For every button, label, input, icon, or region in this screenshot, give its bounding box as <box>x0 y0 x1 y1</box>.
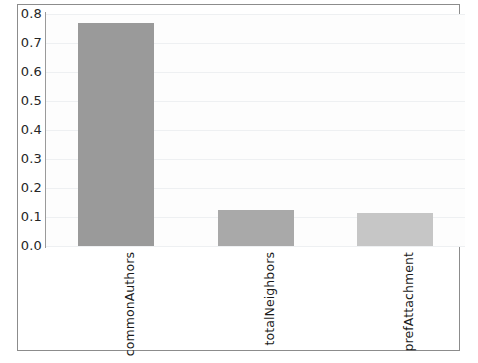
x-axis-tick-labels: commonAuthorstotalNeighborsprefAttachmen… <box>0 0 478 363</box>
x-axis-tick-label: commonAuthors <box>122 252 137 356</box>
x-axis-tick-label: totalNeighbors <box>262 252 277 346</box>
x-axis-tick-label: prefAttachment <box>401 252 416 352</box>
chart-figure: 0.80.70.60.50.40.30.20.10.0 commonAuthor… <box>0 0 478 363</box>
